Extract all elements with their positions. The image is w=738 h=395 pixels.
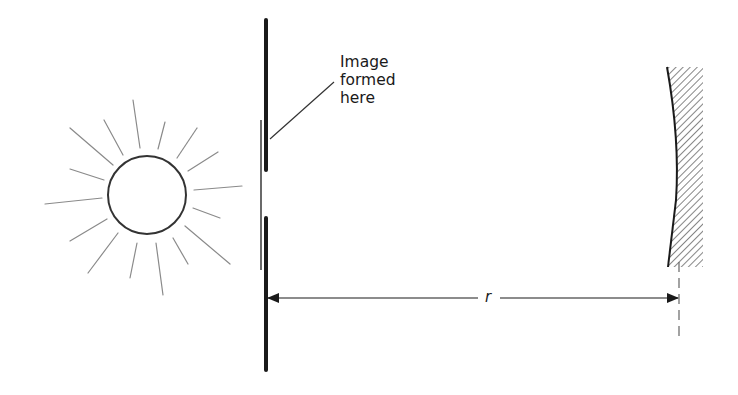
- sun-rays: [45, 100, 242, 295]
- optics-diagram: Image formed here r: [0, 0, 738, 395]
- image-label-line-2: formed: [340, 71, 396, 89]
- distance-r-label: r: [482, 288, 494, 306]
- image-label-line-3: here: [340, 89, 396, 107]
- sun-icon: [45, 100, 242, 295]
- image-formed-label: Image formed here: [340, 53, 396, 107]
- image-label-line-1: Image: [340, 53, 396, 71]
- image-label-leader: [270, 82, 334, 139]
- sun-disc: [108, 156, 186, 234]
- concave-mirror: [667, 67, 703, 267]
